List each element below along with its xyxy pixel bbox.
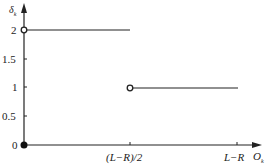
x-tick-end: L−R	[224, 152, 244, 163]
x-axis-label: Ok	[253, 151, 264, 167]
open-circle-marker	[21, 27, 27, 33]
x-tick-mid: (L−R)/2	[106, 152, 142, 163]
y-tick-1: 1	[12, 82, 18, 93]
y-axis-arrow-icon	[21, 3, 27, 13]
y-tick-1.5: 1.5	[2, 54, 16, 65]
filled-circle-marker	[21, 142, 28, 149]
y-axis-label: δk	[9, 4, 16, 20]
open-circle-marker	[127, 85, 133, 91]
x-axis-arrow-icon	[252, 142, 262, 148]
step-chart	[0, 0, 269, 167]
y-tick-0: 0	[12, 140, 18, 151]
y-tick-2: 2	[11, 25, 17, 36]
y-tick-0.5: 0.5	[2, 111, 16, 122]
